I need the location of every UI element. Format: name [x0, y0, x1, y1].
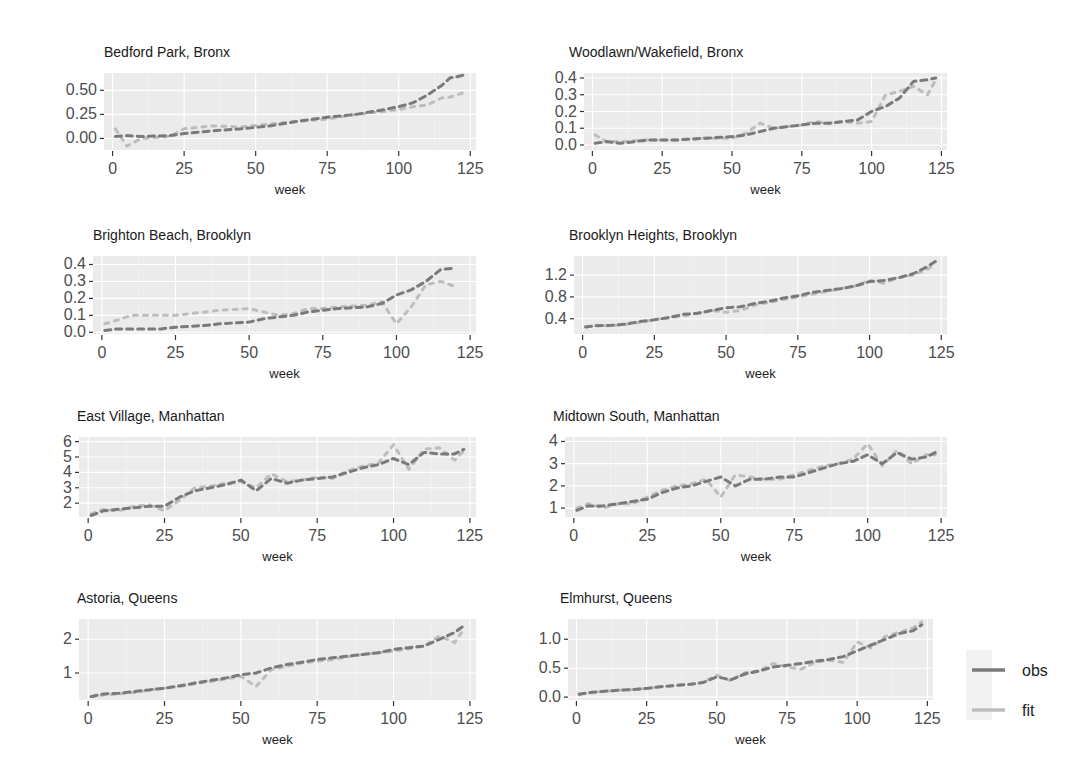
x-tick-label: 75 [308, 527, 326, 544]
x-tick-label: 75 [318, 160, 336, 177]
panel-title: Bedford Park, Bronx [104, 44, 230, 60]
x-tick-label: 50 [232, 710, 250, 727]
legend-label-fit: fit [1022, 702, 1035, 719]
x-tick-label: 75 [314, 344, 332, 361]
legend: obsfit [966, 650, 1048, 720]
y-tick-label: 2 [63, 630, 72, 647]
faceted-line-chart: 0.000.250.500255075100125weekBedford Par… [0, 0, 1088, 782]
x-axis-label: week [274, 182, 306, 197]
x-tick-label: 0 [569, 527, 578, 544]
x-tick-label: 50 [708, 710, 726, 727]
x-tick-label: 100 [854, 527, 881, 544]
y-tick-label: 2 [549, 477, 558, 494]
x-tick-label: 125 [457, 344, 484, 361]
y-tick-label: 0.1 [64, 306, 86, 323]
facet-panel: 0.40.81.20255075100125weekBrooklyn Heigh… [545, 227, 955, 381]
y-tick-label: 0.0 [539, 688, 561, 705]
x-tick-label: 75 [789, 344, 807, 361]
x-tick-label: 75 [308, 710, 326, 727]
y-tick-label: 5 [63, 448, 72, 465]
panel-background [79, 619, 476, 700]
x-tick-label: 0 [84, 527, 93, 544]
x-tick-label: 0 [84, 710, 93, 727]
x-tick-label: 100 [380, 710, 407, 727]
x-tick-label: 100 [383, 344, 410, 361]
x-tick-label: 100 [844, 710, 871, 727]
x-tick-label: 125 [928, 160, 955, 177]
x-axis-label: week [744, 366, 776, 381]
x-tick-label: 25 [156, 527, 174, 544]
y-tick-label: 4 [63, 463, 72, 480]
y-tick-label: 3 [549, 455, 558, 472]
x-tick-label: 75 [793, 160, 811, 177]
x-tick-label: 100 [856, 344, 883, 361]
x-tick-label: 125 [457, 527, 484, 544]
x-tick-label: 125 [928, 344, 955, 361]
panel-background [565, 437, 947, 517]
x-tick-label: 75 [778, 710, 796, 727]
x-tick-label: 125 [457, 160, 484, 177]
y-tick-label: 0.4 [555, 69, 577, 86]
y-tick-label: 0.1 [555, 119, 577, 136]
x-tick-label: 25 [638, 710, 656, 727]
facet-panel: 0.00.10.20.30.40255075100125weekWoodlawn… [555, 44, 955, 197]
facet-panel: 0.00.51.00255075100125weekElmhurst, Quee… [539, 590, 941, 747]
y-tick-label: 0.00 [66, 129, 97, 146]
y-tick-label: 0.0 [64, 323, 86, 340]
x-tick-label: 25 [645, 344, 663, 361]
y-tick-label: 1.0 [539, 630, 561, 647]
y-tick-label: 0.0 [555, 136, 577, 153]
y-tick-label: 0.4 [545, 310, 567, 327]
panel-title: Woodlawn/Wakefield, Bronx [569, 44, 743, 60]
x-axis-label: week [261, 549, 293, 564]
panel-title: Astoria, Queens [77, 590, 177, 606]
y-tick-label: 1 [549, 499, 558, 516]
y-tick-label: 0.2 [64, 289, 86, 306]
y-tick-label: 0.2 [555, 103, 577, 120]
x-tick-label: 0 [108, 160, 117, 177]
x-axis-label: week [268, 366, 300, 381]
x-tick-label: 50 [723, 160, 741, 177]
chart-canvas: 0.000.250.500255075100125weekBedford Par… [0, 0, 1088, 782]
x-tick-label: 100 [380, 527, 407, 544]
x-tick-label: 75 [785, 527, 803, 544]
y-tick-label: 3 [63, 479, 72, 496]
panel-title: Brooklyn Heights, Brooklyn [569, 227, 737, 243]
y-tick-label: 0.8 [545, 288, 567, 305]
y-tick-label: 1.2 [545, 266, 567, 283]
x-tick-label: 50 [232, 527, 250, 544]
panel-title: East Village, Manhattan [77, 408, 225, 424]
y-tick-label: 1 [63, 664, 72, 681]
facet-panel: 12340255075100125weekMidtown South, Manh… [549, 408, 954, 564]
x-axis-label: week [749, 182, 781, 197]
x-tick-label: 50 [247, 160, 265, 177]
y-tick-label: 0.5 [539, 659, 561, 676]
y-tick-label: 0.3 [555, 86, 577, 103]
x-tick-label: 25 [638, 527, 656, 544]
x-tick-label: 50 [717, 344, 735, 361]
x-tick-label: 50 [712, 527, 730, 544]
x-tick-label: 0 [572, 710, 581, 727]
panel-background [568, 619, 933, 700]
x-tick-label: 0 [97, 344, 106, 361]
x-tick-label: 50 [240, 344, 258, 361]
x-tick-label: 25 [156, 710, 174, 727]
x-tick-label: 0 [588, 160, 597, 177]
x-tick-label: 100 [858, 160, 885, 177]
y-tick-label: 2 [63, 494, 72, 511]
x-tick-label: 0 [578, 344, 587, 361]
x-tick-label: 25 [175, 160, 193, 177]
x-tick-label: 25 [167, 344, 185, 361]
panel-title: Brighton Beach, Brooklyn [93, 227, 251, 243]
x-tick-label: 125 [928, 527, 955, 544]
facet-panel: 234560255075100125weekEast Village, Manh… [63, 408, 483, 564]
x-axis-label: week [740, 549, 772, 564]
panel-title: Midtown South, Manhattan [553, 408, 720, 424]
y-tick-label: 6 [63, 433, 72, 450]
x-tick-label: 125 [457, 710, 484, 727]
x-tick-label: 100 [385, 160, 412, 177]
facet-panel: 0.00.10.20.30.40255075100125weekBrighton… [64, 227, 484, 381]
y-tick-label: 0.25 [66, 105, 97, 122]
x-tick-label: 125 [914, 710, 941, 727]
x-tick-label: 25 [653, 160, 671, 177]
